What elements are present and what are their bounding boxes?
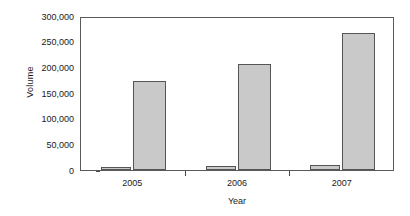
x-axis-title: Year [80,196,394,207]
x-axis-tick-label: 2005 [92,178,172,189]
y-axis-tick-label: 200,000 [20,64,74,73]
y-axis-tick-label: 100,000 [20,115,74,124]
plot-area [80,17,394,171]
bar-2005-series-1 [101,167,131,170]
bar-2006-series-2 [238,64,271,170]
bar-chart-figure: Volume 050,000100,000150,000200,000250,0… [0,0,410,216]
x-axis-tick-mark [185,171,186,176]
y-axis-tick-label-group: 050,000100,000150,000200,000250,000300,0… [20,17,74,171]
y-axis-tick-label: 0 [20,167,74,176]
y-axis-tick-mark [96,171,100,172]
y-axis-tick-label: 50,000 [20,141,74,150]
x-axis-tick-label: 2006 [197,178,277,189]
bar-2007-series-1 [310,165,340,170]
bar-2005-series-2 [133,81,166,170]
x-axis-tick-mark [289,171,290,176]
y-axis-tick-label: 300,000 [20,13,74,22]
y-axis-tick-label: 250,000 [20,38,74,47]
y-axis-tick-label: 150,000 [20,90,74,99]
bar-2006-series-1 [206,166,236,170]
x-axis-tick-label: 2007 [302,178,382,189]
bar-2007-series-2 [342,33,375,170]
